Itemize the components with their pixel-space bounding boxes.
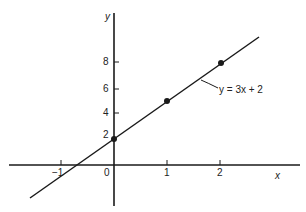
line-graph (0, 0, 306, 212)
x-tick-label-2: 2 (217, 168, 223, 178)
point-2-8 (218, 60, 224, 66)
equation-label: y = 3x + 2 (219, 85, 263, 95)
annotation-pointer (201, 80, 218, 88)
x-tick-label-neg1: −1 (52, 168, 63, 178)
point-1-5 (164, 98, 170, 104)
y-tick-label-8: 8 (103, 57, 109, 67)
y-tick-label-2: 2 (103, 130, 109, 140)
x-tick-label-0: 0 (104, 168, 110, 178)
x-axis-label: x (275, 171, 280, 181)
line-y-3x-plus-2 (30, 37, 259, 198)
y-tick-label-4: 4 (103, 108, 109, 118)
x-tick-label-1: 1 (164, 168, 170, 178)
y-axis-label: y (105, 12, 110, 22)
y-tick-label-6: 6 (103, 84, 109, 94)
point-0-2 (111, 136, 117, 142)
